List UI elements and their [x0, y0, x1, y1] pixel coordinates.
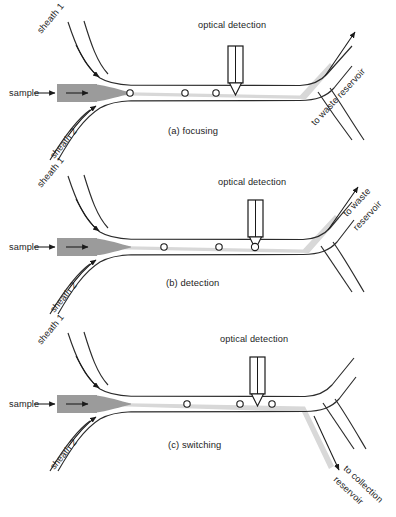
cell-particle — [216, 244, 222, 250]
outlet-upper-wall-a — [300, 46, 352, 86]
outlet-lower-wall-c — [323, 403, 354, 449]
sheath1-arrow-c — [76, 356, 99, 388]
cell-particle — [127, 90, 133, 96]
cell-particle — [269, 401, 275, 407]
cell-particle-detected — [251, 243, 258, 250]
outlet-lower-wall2-b — [333, 242, 364, 292]
optical-detection-label: optical detection — [198, 20, 266, 30]
cell-particle — [237, 401, 243, 407]
cell-particle — [182, 90, 188, 96]
outlet-upper-wall-c — [305, 358, 354, 397]
cell-particle — [184, 401, 190, 407]
sheath1-arrow-a — [76, 45, 99, 77]
panel-caption: (a) focusing — [168, 126, 218, 137]
panel-caption: (b) detection — [166, 278, 219, 289]
outlet-lower-wall-b — [321, 246, 352, 292]
panel-b-graphics — [34, 175, 364, 314]
outlet-junction-wall-c — [305, 377, 356, 412]
sample-taper-c — [92, 395, 131, 413]
sheath1-arrow-b — [76, 199, 99, 231]
sample-label: sample — [9, 88, 39, 98]
optical-probe-b — [248, 200, 263, 249]
waste-arrow-a — [325, 32, 355, 76]
sample-taper-a — [92, 84, 131, 102]
optical-detection-label: optical detection — [218, 177, 286, 187]
cell-particle — [213, 90, 219, 96]
optical-detection-label: optical detection — [220, 334, 288, 344]
upper-wall-a — [68, 22, 300, 86]
sample-taper-b — [92, 238, 131, 256]
panel-a-graphics — [34, 21, 364, 160]
optical-probe-c — [250, 357, 265, 406]
sample-label: sample — [9, 242, 39, 252]
panel-caption: (c) switching — [168, 440, 221, 451]
figure-root: sample sheath 1 sheath 2 optical detecti… — [0, 0, 396, 517]
sample-label: sample — [9, 399, 39, 409]
cell-particle — [161, 244, 167, 250]
outlet-lower-wall2-c — [335, 399, 366, 449]
optical-probe-a — [228, 46, 243, 95]
